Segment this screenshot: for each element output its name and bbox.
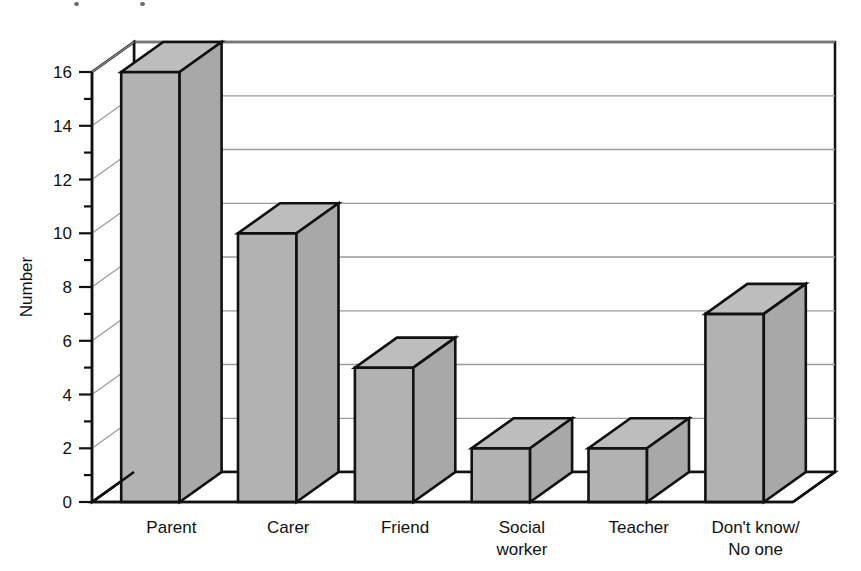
bar-front-face — [472, 448, 530, 502]
bar-1 — [121, 42, 221, 502]
bar-3 — [355, 338, 455, 502]
bar-chart-canvas: 0246810121416NumberParentCarerFriendSoci… — [0, 0, 861, 571]
x-axis-category-label: No one — [728, 540, 783, 559]
bar-front-face — [121, 72, 179, 502]
x-axis-category-label: Teacher — [609, 518, 670, 537]
y-axis-tick-label: 8 — [63, 278, 72, 297]
bar-front-face — [238, 233, 297, 502]
bar-side-face — [413, 338, 455, 502]
x-axis-category-label: Carer — [267, 518, 310, 537]
bar-side-face — [180, 42, 222, 502]
x-axis-category-label: Don't know/ — [711, 518, 800, 537]
y-axis-title: Number — [17, 256, 36, 317]
y-axis — [79, 72, 92, 502]
x-axis-category-label: worker — [495, 540, 547, 559]
bar-front-face — [589, 448, 648, 502]
y-axis-tick-label: 4 — [63, 386, 72, 405]
y-axis-tick-label: 16 — [53, 63, 72, 82]
chart-figure: 0246810121416NumberParentCarerFriendSoci… — [0, 0, 861, 571]
y-axis-tick-label: 12 — [53, 171, 72, 190]
bar-side-face — [764, 284, 806, 502]
y-axis-tick-label: 6 — [63, 332, 72, 351]
bar-side-face — [297, 203, 339, 502]
bar-front-face — [705, 314, 763, 502]
bar-6 — [705, 284, 805, 502]
x-axis-category-label: Friend — [381, 518, 429, 537]
y-axis-tick-label: 14 — [53, 117, 72, 136]
x-axis-category-label: Parent — [146, 518, 196, 537]
y-axis-tick-label: 0 — [63, 493, 72, 512]
y-axis-tick-label: 2 — [63, 439, 72, 458]
bar-2 — [238, 203, 339, 502]
x-axis-category-label: Social — [499, 518, 545, 537]
bar-front-face — [355, 368, 413, 502]
y-axis-tick-label: 10 — [53, 224, 72, 243]
